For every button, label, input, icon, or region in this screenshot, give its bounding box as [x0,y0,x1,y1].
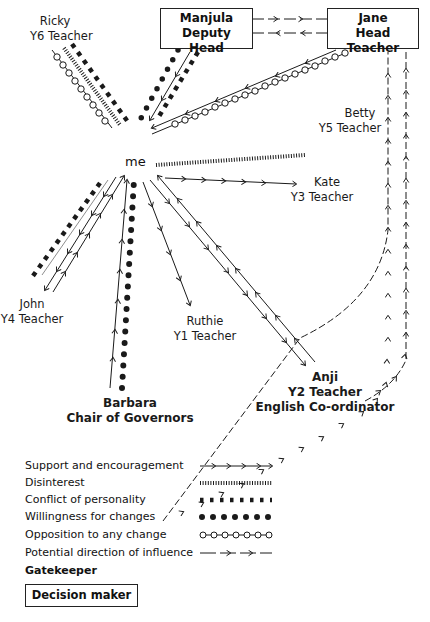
node-manjula-decision-maker: Manjula Deputy Head [160,8,253,49]
legend-decision-maker: Decision maker [25,584,138,607]
node-anji-role: Y2 Teacher [250,385,400,400]
node-barbara-role: Chair of Governors [55,411,205,426]
node-jane-role: Head Teacher [331,26,415,56]
ricky-relationship-lines [52,44,128,128]
node-kate-role: Y3 Teacher [272,190,372,205]
manjula-jane-influence [252,19,327,33]
legend-symbols [200,466,272,553]
node-ruthie-name: Ruthie [160,314,250,329]
manjula-relationship-lines [140,50,198,120]
node-ricky-role: Y6 Teacher [30,29,80,44]
anji-jane-influence [365,52,406,401]
node-betty-name: Betty [300,106,400,121]
node-betty-role: Y5 Teacher [300,121,400,136]
node-manjula-role: Deputy Head [164,26,249,56]
node-anji-gatekeeper: Anji Y2 Teacher English Co-ordinator [250,370,400,415]
node-ruthie-role: Y1 Teacher [160,329,250,344]
node-jane-decision-maker: Jane Head Teacher [327,8,419,49]
node-jane-name: Jane [331,11,415,26]
node-john-name: John [0,297,64,312]
node-ruthie: Ruthie Y1 Teacher [160,314,250,344]
barbara-relationship-lines [110,180,134,388]
node-kate-name: Kate [272,175,372,190]
legend-conflict: Conflict of personality [25,493,146,507]
node-barbara-name: Barbara [55,396,205,411]
legend-willingness: Willingness for changes [25,510,155,524]
center-node-me: me [125,154,146,169]
node-kate: Kate Y3 Teacher [272,175,372,205]
node-ricky: Ricky Y6 Teacher [30,14,80,44]
john-relationship-lines [30,176,124,292]
node-barbara-gatekeeper: Barbara Chair of Governors [55,396,205,426]
node-anji-role2: English Co-ordinator [250,400,400,415]
legend-gatekeeper: Gatekeeper [25,564,97,578]
legend-support: Support and encouragement [25,459,183,473]
legend-disinterest: Disinterest [25,476,84,490]
node-john: John Y4 Teacher [0,297,64,327]
node-manjula-name: Manjula [164,11,249,26]
node-john-role: Y4 Teacher [0,312,64,327]
legend-opposition: Opposition to any change [25,528,166,542]
node-anji-name: Anji [250,370,400,385]
node-ricky-name: Ricky [30,14,80,29]
legend-influence: Potential direction of influence [25,546,193,560]
betty-disinterest-line [156,155,305,165]
node-betty: Betty Y5 Teacher [300,106,400,136]
